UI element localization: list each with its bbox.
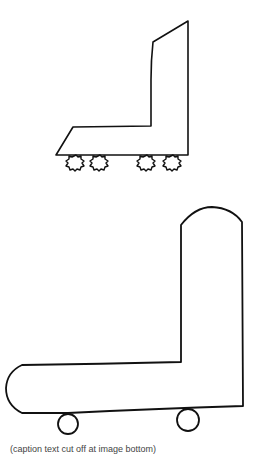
- figure-caption: (caption text cut off at image bottom): [0, 443, 263, 455]
- fuzzy-wheel-1: [66, 155, 84, 171]
- bottom-skate-outline: [6, 207, 243, 413]
- fuzzy-wheel-2: [90, 155, 108, 171]
- bottom-skate-drawing: [6, 207, 243, 434]
- top-skate-wheels: [66, 155, 181, 171]
- round-wheel-right: [177, 409, 199, 431]
- fuzzy-wheel-3: [137, 155, 155, 171]
- round-wheel-left: [58, 414, 78, 434]
- fuzzy-wheel-4: [163, 155, 181, 171]
- top-skate-drawing: [56, 21, 188, 171]
- top-skate-outline: [56, 21, 188, 155]
